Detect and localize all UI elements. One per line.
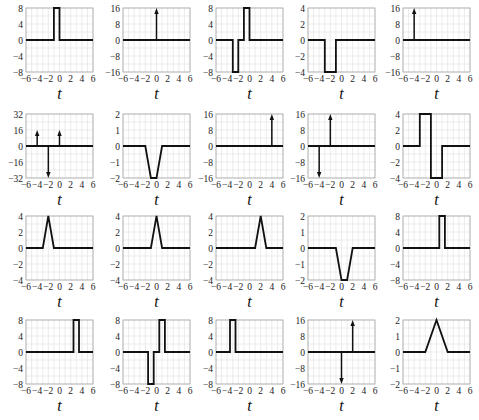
x-tick-label: −6	[303, 282, 313, 292]
x-axis-label: t	[339, 397, 344, 414]
x-tick-label: 0	[154, 282, 159, 292]
signal-plot: −16−80816−6−4−20246t	[105, 4, 192, 103]
x-axis-label: t	[434, 85, 439, 102]
x-tick-label: −4	[314, 386, 324, 396]
y-tick-label: 4	[18, 212, 23, 222]
x-tick-label: 4	[79, 74, 84, 84]
y-tick-label: 0	[18, 348, 23, 358]
x-tick-label: −2	[43, 74, 53, 84]
y-tick-label: 0	[208, 244, 213, 254]
signal-plot: −8−4048−6−4−20246t	[13, 4, 96, 103]
x-tick-label: −6	[118, 386, 128, 396]
x-tick-label: −6	[118, 74, 128, 84]
y-tick-label: 0	[300, 142, 305, 152]
y-tick-label: 8	[300, 332, 305, 342]
y-tick-label: 4	[208, 212, 213, 222]
y-tick-label: 0	[115, 244, 120, 254]
y-tick-label: 0	[300, 348, 305, 358]
x-tick-label: 2	[258, 386, 263, 396]
x-tick-label: 0	[434, 282, 439, 292]
y-tick-label: 0	[18, 36, 23, 46]
y-tick-label: −8	[295, 364, 305, 374]
y-tick-label: 8	[115, 316, 120, 326]
y-tick-label: 0	[395, 348, 400, 358]
y-tick-label: 2	[300, 20, 305, 30]
x-tick-label: 4	[79, 180, 84, 190]
x-axis-label: t	[247, 397, 252, 414]
y-tick-label: 2	[208, 228, 213, 238]
y-tick-label: 8	[208, 126, 213, 136]
signal-plot: −8−4048−6−4−20246t	[203, 4, 286, 103]
y-tick-label: 0	[395, 244, 400, 254]
x-tick-label: −2	[325, 282, 335, 292]
x-tick-label: 2	[68, 74, 73, 84]
x-tick-label: 0	[247, 386, 252, 396]
x-tick-label: 0	[247, 74, 252, 84]
x-axis-label: t	[154, 191, 159, 208]
impulse-arrow-icon	[350, 320, 354, 326]
impulse-arrow-icon	[317, 172, 321, 178]
signal-plot: −2−1012−6−4−20246t	[295, 212, 378, 311]
y-tick-label: −2	[13, 260, 23, 270]
impulse-arrow-icon	[46, 172, 50, 178]
y-tick-label: −2	[295, 52, 305, 62]
signal-plot: −16−80816−6−4−20246t	[198, 110, 285, 209]
signal-plot: −4−2024−6−4−20246t	[13, 212, 96, 311]
x-tick-label: 6	[91, 74, 96, 84]
x-tick-label: 6	[91, 180, 96, 190]
impulse-arrow-icon	[57, 130, 61, 136]
y-tick-label: 16	[296, 110, 306, 120]
y-tick-label: −8	[203, 158, 213, 168]
x-tick-label: −6	[21, 282, 31, 292]
x-tick-label: 6	[91, 282, 96, 292]
x-tick-label: 4	[456, 386, 461, 396]
x-tick-label: −4	[314, 180, 324, 190]
signal-plot: −4−2024−6−4−20246t	[110, 212, 193, 311]
y-tick-label: 8	[395, 20, 400, 30]
x-tick-label: −6	[21, 180, 31, 190]
x-tick-label: −6	[303, 74, 313, 84]
x-tick-label: −4	[129, 282, 139, 292]
y-tick-label: 4	[18, 20, 23, 30]
impulse-arrow-icon	[412, 8, 416, 14]
x-tick-label: −4	[222, 180, 232, 190]
x-tick-label: −6	[118, 180, 128, 190]
y-tick-label: −2	[110, 260, 120, 270]
x-tick-label: 0	[339, 74, 344, 84]
x-tick-label: −4	[32, 386, 42, 396]
x-tick-label: 6	[281, 180, 286, 190]
x-axis-label: t	[434, 191, 439, 208]
x-tick-label: 6	[188, 74, 193, 84]
x-tick-label: 6	[373, 74, 378, 84]
x-tick-label: 2	[68, 282, 73, 292]
y-tick-label: −4	[110, 364, 120, 374]
y-tick-label: 4	[18, 332, 23, 342]
y-tick-label: −1	[295, 260, 305, 270]
signal-plot: −8−4048−6−4−20246t	[110, 316, 193, 415]
y-tick-label: 8	[208, 316, 213, 326]
x-tick-label: 4	[176, 180, 181, 190]
x-tick-label: 6	[468, 180, 473, 190]
x-tick-label: 2	[258, 74, 263, 84]
x-tick-label: 4	[269, 74, 274, 84]
x-tick-label: −4	[222, 386, 232, 396]
x-tick-label: 4	[361, 74, 366, 84]
y-tick-label: 8	[18, 4, 23, 14]
x-tick-label: −4	[409, 282, 419, 292]
x-tick-label: 6	[188, 386, 193, 396]
signal-plot: −16−80816−6−4−20246t	[290, 316, 377, 415]
impulse-arrow-icon	[270, 114, 274, 120]
y-tick-label: −4	[390, 260, 400, 270]
y-tick-label: −1	[390, 364, 400, 374]
y-tick-label: 8	[300, 126, 305, 136]
x-tick-label: −2	[325, 180, 335, 190]
x-tick-label: 2	[165, 180, 170, 190]
x-tick-label: 4	[269, 180, 274, 190]
y-tick-label: 4	[208, 332, 213, 342]
x-tick-label: 4	[79, 386, 84, 396]
signal-plot: −4−2024−6−4−20246t	[295, 4, 378, 103]
y-tick-label: 4	[395, 228, 400, 238]
x-tick-label: −2	[233, 386, 243, 396]
x-tick-label: 6	[373, 282, 378, 292]
x-tick-label: 6	[281, 386, 286, 396]
